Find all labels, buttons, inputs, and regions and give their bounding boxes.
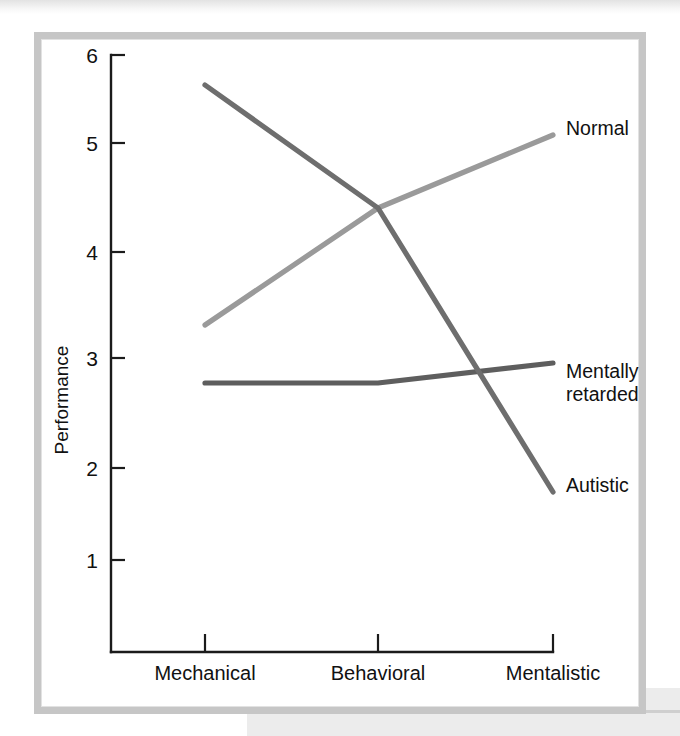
series-label-mentally-retarded-line2: retarded bbox=[566, 383, 639, 405]
series-label-autistic: Autistic bbox=[566, 474, 629, 496]
series-normal bbox=[205, 135, 553, 325]
y-tick-label-5: 5 bbox=[86, 132, 98, 155]
x-category-label-mechanical: Mechanical bbox=[154, 662, 255, 684]
y-axis-title-text: Performance bbox=[51, 346, 72, 455]
y-axis-ticks bbox=[111, 55, 125, 560]
line-chart: 6 5 4 3 2 1 Performance Mechanical Behav… bbox=[0, 0, 680, 736]
y-tick-label-1: 1 bbox=[86, 549, 98, 572]
x-category-label-mentalistic: Mentalistic bbox=[506, 662, 600, 684]
series-mentally-retarded bbox=[205, 363, 553, 383]
series-end-labels: Normal Mentally retarded Autistic bbox=[566, 117, 639, 496]
x-axis-ticks bbox=[205, 634, 553, 652]
x-category-label-behavioral: Behavioral bbox=[331, 662, 426, 684]
series-label-mentally-retarded-line1: Mentally bbox=[566, 360, 639, 382]
y-tick-label-6: 6 bbox=[86, 44, 98, 67]
y-axis-title: Performance bbox=[51, 346, 72, 455]
y-tick-label-3: 3 bbox=[86, 347, 98, 370]
series-label-normal: Normal bbox=[566, 117, 629, 139]
y-axis-tick-labels: 6 5 4 3 2 1 bbox=[86, 44, 98, 572]
y-tick-label-2: 2 bbox=[86, 457, 98, 480]
y-tick-label-4: 4 bbox=[86, 241, 98, 264]
x-axis-category-labels: Mechanical Behavioral Mentalistic bbox=[154, 662, 600, 684]
